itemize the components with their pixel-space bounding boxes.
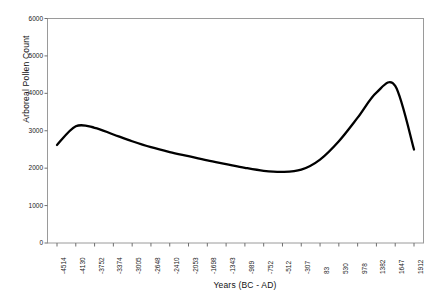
x-tick-label: -3374	[116, 257, 123, 274]
x-tick-label: -989	[248, 261, 255, 274]
x-tick-label: -307	[304, 261, 311, 274]
x-tick-label: -3752	[98, 257, 105, 274]
x-tick-label: -3005	[135, 257, 142, 274]
x-tick-label: -512	[285, 261, 292, 274]
x-tick-label-group: -4514-4130-3752-3374-3005-2648-2410-2053…	[0, 0, 443, 297]
chart-figure: Arboreal Pollen Count Years (BC - AD) 01…	[0, 0, 443, 297]
x-tick-label: 1647	[398, 260, 405, 274]
x-tick-label: 530	[342, 263, 349, 274]
x-tick-label: -2648	[154, 257, 161, 274]
x-tick-label: -2053	[192, 257, 199, 274]
x-tick-label: 978	[361, 263, 368, 274]
x-tick-label: 1912	[417, 260, 424, 274]
x-tick-label: -1698	[210, 257, 217, 274]
x-tick-label: 83	[323, 267, 330, 274]
x-tick-label: -2410	[173, 257, 180, 274]
x-tick-label: 1382	[379, 260, 386, 274]
x-tick-label: -1343	[229, 257, 236, 274]
x-tick-label: -752	[267, 261, 274, 274]
x-tick-label: -4130	[79, 257, 86, 274]
x-tick-label: -4514	[60, 257, 67, 274]
